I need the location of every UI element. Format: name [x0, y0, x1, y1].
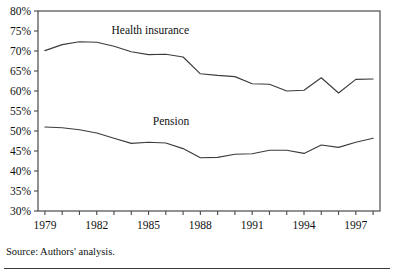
- bottom-divider: [4, 268, 390, 269]
- x-tick-label: 1979: [33, 219, 56, 231]
- x-tick-label: 1985: [137, 219, 160, 231]
- y-tick-label: 50%: [10, 125, 32, 137]
- figure-container: 80%75%70%65%60%55%50%45%40%35%30% 197919…: [0, 0, 394, 276]
- y-tick-label: 75%: [10, 25, 32, 37]
- line-chart: 80%75%70%65%60%55%50%45%40%35%30% 197919…: [0, 0, 394, 276]
- x-tick-label: 1988: [189, 219, 212, 231]
- y-tick-label: 65%: [10, 65, 32, 77]
- x-axis: 1979198219851988199119941997: [33, 211, 373, 231]
- y-tick-label: 55%: [10, 105, 32, 117]
- y-tick-label: 40%: [10, 165, 32, 177]
- y-tick-label: 45%: [10, 145, 32, 157]
- x-tick-label: 1997: [344, 219, 367, 231]
- source-note: Source: Authors' analysis.: [6, 246, 115, 257]
- y-tick-label: 60%: [10, 85, 32, 97]
- y-tick-label: 30%: [10, 205, 32, 217]
- plot-border: [38, 11, 380, 211]
- x-tick-label: 1994: [293, 219, 316, 231]
- x-tick-label: 1982: [85, 219, 108, 231]
- x-tick-label: 1991: [241, 219, 264, 231]
- series-label-health-insurance: Health insurance: [111, 24, 189, 36]
- series-label-pension: Pension: [153, 115, 190, 127]
- y-tick-label: 70%: [10, 45, 32, 57]
- y-tick-label: 80%: [10, 5, 32, 17]
- plot-frame: [38, 11, 380, 211]
- y-axis: 80%75%70%65%60%55%50%45%40%35%30%: [10, 5, 38, 217]
- y-tick-label: 35%: [10, 185, 32, 197]
